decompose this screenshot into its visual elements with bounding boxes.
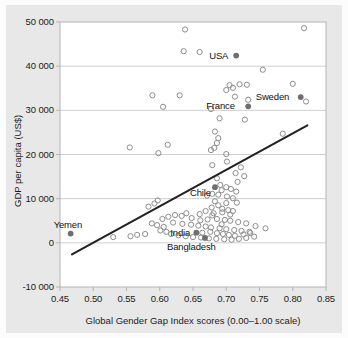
x-tick-label: 0.85 — [310, 293, 342, 304]
y-axis-title: GDP per capita (US$) — [12, 114, 23, 206]
point-label-chile: Chile — [190, 187, 211, 198]
x-tick-label: 0.75 — [244, 293, 276, 304]
y-tick-label: 10 000 — [26, 193, 54, 204]
x-tick-label: 0.60 — [144, 293, 176, 304]
x-tick-label: 0.65 — [177, 293, 209, 304]
x-axis-title: Global Gender Gap Index scores (0.00–1.0… — [60, 315, 326, 326]
y-tick-marks — [56, 22, 60, 287]
point-label-sweden: Sweden — [256, 91, 289, 102]
point-label-bangladesh: Bangladesh — [167, 241, 216, 252]
chart-figure: GDP per capita (US$) Global Gender Gap I… — [0, 0, 348, 338]
y-tick-label: 30 000 — [26, 104, 54, 115]
x-tick-label: 0.50 — [77, 293, 109, 304]
x-tick-label: 0.55 — [111, 293, 143, 304]
point-label-france: France — [206, 100, 235, 111]
y-tick-label: 20 000 — [26, 149, 54, 160]
x-tick-label: 0.70 — [210, 293, 242, 304]
y-tick-label: 50 000 — [26, 16, 54, 27]
y-tick-label: -10 000 — [22, 281, 54, 292]
y-tick-label: 40 000 — [26, 60, 54, 71]
x-tick-marks — [60, 287, 326, 291]
point-label-india: India — [170, 227, 190, 238]
point-label-usa: USA — [209, 50, 228, 61]
point-label-yemen: Yemen — [54, 219, 82, 230]
y-tick-label: 0 — [49, 237, 54, 248]
x-tick-label: 0.45 — [44, 293, 76, 304]
x-tick-label: 0.80 — [277, 293, 309, 304]
